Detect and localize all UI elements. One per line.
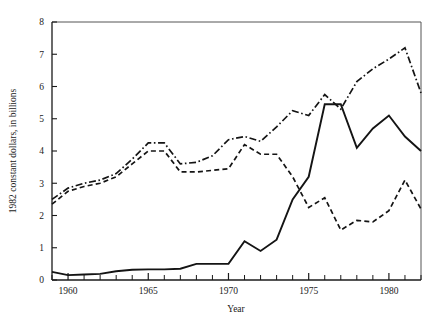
x-axis-title: Year: [227, 304, 245, 314]
x-tick-label: 1960: [59, 286, 78, 296]
plot-frame: [52, 22, 421, 280]
y-tick-label: 4: [39, 146, 44, 156]
plot-background: [52, 22, 421, 280]
y-tick-label: 1: [39, 243, 44, 253]
x-tick-label: 1980: [379, 286, 398, 296]
line-chart: 012345678 19601965197019751980 1982 cons…: [0, 0, 438, 332]
y-tick-label: 2: [39, 211, 44, 221]
y-axis-title: 1982 constant dollars, in billions: [8, 89, 18, 214]
x-tick-label: 1965: [139, 286, 158, 296]
x-tick-label: 1975: [299, 286, 318, 296]
y-tick-label: 5: [39, 114, 44, 124]
chart-container: 012345678 19601965197019751980 1982 cons…: [0, 0, 438, 332]
y-tick-label: 0: [39, 275, 44, 285]
x-tick-label: 1970: [219, 286, 238, 296]
y-tick-label: 7: [39, 50, 44, 60]
y-tick-label: 3: [39, 179, 44, 189]
y-tick-label: 8: [39, 17, 44, 27]
y-tick-label: 6: [39, 82, 44, 92]
